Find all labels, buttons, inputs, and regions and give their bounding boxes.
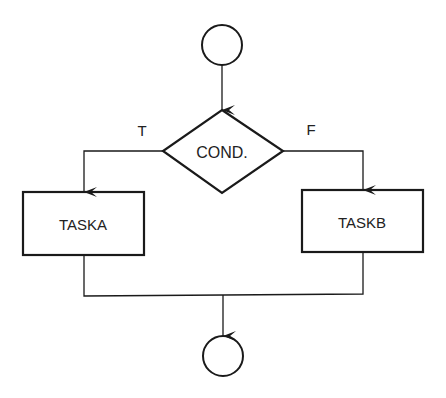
start-node — [202, 25, 242, 65]
flowchart-canvas: COND. T F TASKA TASKB — [0, 0, 446, 398]
true-branch-label: T — [137, 122, 146, 139]
end-node — [203, 336, 243, 376]
connector-false-branch — [283, 151, 363, 190]
connector-true-branch — [84, 151, 163, 192]
decision-label: COND. — [196, 144, 248, 161]
false-branch-label: F — [306, 121, 315, 138]
task-b-label: TASKB — [338, 214, 386, 231]
connector-merge — [84, 252, 363, 296]
task-a-label: TASKA — [59, 216, 107, 233]
